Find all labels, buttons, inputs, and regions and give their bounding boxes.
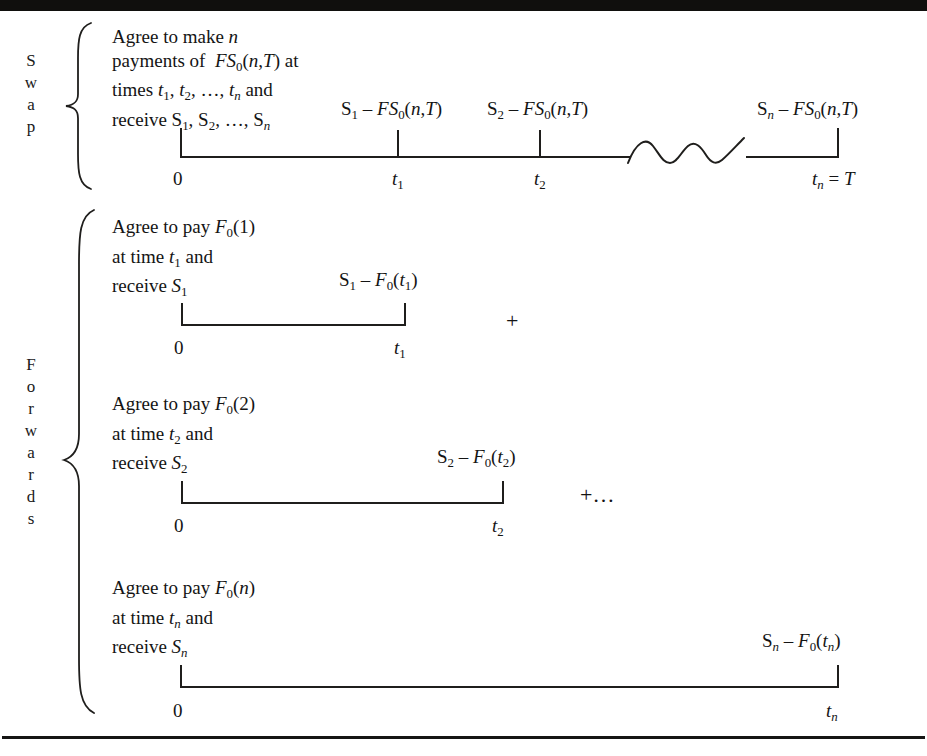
forward-1-tick-label-t1: t1 [394, 337, 406, 365]
top-black-bar [0, 0, 927, 11]
forward-3-timeline [180, 665, 839, 688]
swap-tick-label-0: 0 [173, 168, 183, 190]
swap-desc-line-3: receive S1, S2, …, Sn [112, 108, 298, 138]
swap-tick-label-t1: t1 [392, 168, 404, 196]
forward-1-timeline [181, 303, 406, 326]
forward-2-description: Agree to pay F0(2) at time t2 and receiv… [112, 392, 255, 481]
forwards-label-letter-3: w [16, 420, 46, 442]
forwards-curly-brace [58, 206, 102, 718]
forward-1-description: Agree to pay F0(1) at time t1 and receiv… [112, 215, 255, 304]
forwards-label-letter-1: o [16, 376, 46, 398]
swap-curly-brace [58, 20, 98, 192]
swap-label-letter-1: w [16, 72, 46, 94]
forwards-label-letter-4: a [16, 442, 46, 464]
forwards-label-letter-0: F [16, 354, 46, 376]
forward-1-plus-operator: + [506, 310, 518, 332]
forward-2-desc-line-1: at time t2 and [112, 422, 255, 452]
forwards-label-letter-5: r [16, 464, 46, 486]
forwards-label-letter-7: s [16, 508, 46, 530]
swap-tick-label-tn: tn = T [812, 168, 855, 196]
forward-3-desc-line-0: Agree to pay F0(n) [112, 576, 255, 606]
swap-tick-label-t2: t2 [534, 168, 546, 196]
swap-desc-line-1: payments of FS0(n,T) at [112, 49, 298, 79]
forward-3-desc-line-2: receive Sn [112, 635, 255, 665]
swap-desc-line-0: Agree to make n [112, 25, 298, 49]
forward-1-payoff: S1 – F0(t1) [339, 269, 417, 297]
forward-2-tick-label-0: 0 [174, 515, 184, 537]
forward-2-plus-ellipsis-operator: +… [580, 484, 614, 506]
forward-3-tick-label-0: 0 [173, 700, 183, 722]
forward-2-payoff: S2 – F0(t2) [437, 446, 515, 474]
forward-2-desc-line-2: receive S2 [112, 451, 255, 481]
bottom-horizontal-rule [2, 736, 925, 739]
swap-label-letter-3: p [16, 116, 46, 138]
forward-3-payoff: Sn – F0(tn) [762, 630, 840, 658]
forward-3-tick-label-tn: tn [826, 700, 838, 728]
swap-description: Agree to make n payments of FS0(n,T) at … [112, 25, 298, 137]
swap-group-label: S w a p [16, 50, 46, 138]
swap-payoff-n: Sn – FS0(n,T) [757, 98, 858, 126]
forwards-label-letter-6: d [16, 486, 46, 508]
swap-label-letter-2: a [16, 94, 46, 116]
forward-1-desc-line-1: at time t1 and [112, 245, 255, 275]
swap-desc-line-2: times t1, t2, …, tn and [112, 78, 298, 108]
swap-forwards-decomposition-figure: S w a p Agree to make n payments of FS0(… [0, 0, 927, 756]
forward-2-tick-label-t2: t2 [492, 515, 504, 543]
forward-1-tick-label-0: 0 [174, 337, 184, 359]
forward-1-desc-line-0: Agree to pay F0(1) [112, 215, 255, 245]
forward-3-description: Agree to pay F0(n) at time tn and receiv… [112, 576, 255, 665]
forwards-label-letter-2: r [16, 398, 46, 420]
swap-label-letter-0: S [16, 50, 46, 72]
forward-3-desc-line-1: at time tn and [112, 606, 255, 636]
forward-1-desc-line-2: receive S1 [112, 274, 255, 304]
forwards-group-label: F o r w a r d s [16, 354, 46, 530]
swap-payoff-2: S2 – FS0(n,T) [487, 98, 588, 126]
swap-payoff-1: S1 – FS0(n,T) [341, 98, 442, 126]
forward-2-desc-line-0: Agree to pay F0(2) [112, 392, 255, 422]
forward-2-timeline [181, 481, 504, 504]
